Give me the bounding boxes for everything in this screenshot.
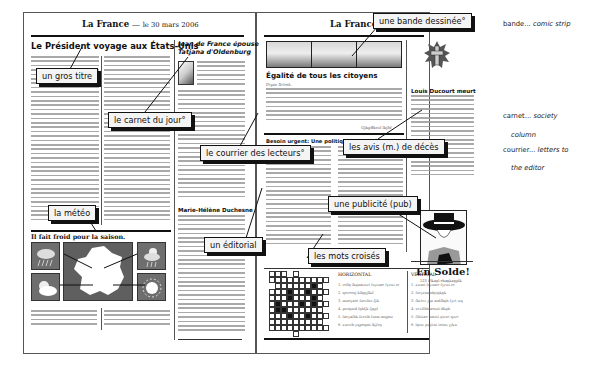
vertical-title: VERTICAL [411, 272, 436, 277]
vertical-clue: 3. fkrtcv jga asdfhgh fyrt wq [411, 299, 463, 303]
column-divider [101, 56, 102, 225]
vertical-clue: 2. fscyrnandgtgkgk [411, 291, 446, 295]
glossary-bande: bande... comic strip [503, 20, 570, 28]
health-text [266, 146, 331, 246]
letters-author: Marie-Hélène Duchesne [178, 207, 253, 213]
comic-panel [312, 42, 357, 67]
rain-cloud-icon [31, 242, 60, 270]
vertical-clue: 1. zwmt lsyume fyrwi io [411, 283, 454, 287]
sun-cloud-icon [31, 273, 60, 301]
horizontal-clue: 6. zucrib yqpoqmi lkjfrg [338, 323, 382, 327]
callout-bande-dessinee: une bande dessinée° [373, 13, 472, 29]
section-rule [264, 133, 404, 135]
callout-gros-titre: un gros titre [36, 68, 98, 84]
glossary-carnet-cont: column [511, 131, 536, 139]
france-map [63, 242, 133, 301]
letters-text [178, 215, 245, 332]
comic-strip [266, 41, 402, 68]
wedding-photo [178, 61, 194, 85]
masthead-rule [264, 35, 424, 37]
column-divider [101, 308, 102, 330]
section-rule [264, 268, 429, 269]
callout-editorial: un éditorial [204, 237, 263, 253]
obituary-text [411, 95, 474, 175]
sun-icon [137, 273, 166, 301]
feature-headline: Égalité de tous les citoyens [266, 71, 378, 80]
weather-rule [31, 230, 171, 232]
horizontal-title: HORIZONTAL [338, 272, 371, 277]
vertical-clue: 4. scvfthh aosnt dkgh [411, 307, 450, 311]
column-divider [174, 40, 175, 340]
glossary-courrier: courrier... letters to [503, 146, 568, 154]
bottom-rule [264, 338, 429, 340]
weather-map [27, 242, 172, 302]
callout-publicite: une publicité (pub) [328, 196, 418, 212]
column-end-rule [178, 339, 242, 340]
comic-panel [267, 42, 312, 67]
advertisement-image [420, 210, 467, 265]
comic-panel [357, 42, 401, 67]
article-text [197, 61, 245, 87]
glossary-courrier-cont: the editor [511, 164, 544, 172]
horizontal-clue: 1. rollg lkgaaswrt lsyume fyrwi io [338, 283, 399, 287]
callout-avis-deces: les avis (m.) de décès [343, 139, 445, 155]
vertical-clue: 5. fthtiao nmstt gtrsc qwe [411, 315, 458, 319]
horizontal-clue: 5. facyalhk fucrib lsnm mqpoz [338, 315, 393, 319]
section-rule [411, 261, 473, 262]
article-text [104, 56, 170, 221]
weather-headline: Il fait froid pour la saison. [31, 233, 125, 241]
column-divider [407, 271, 408, 333]
weather-text [31, 310, 97, 328]
rain-cloud-icon [137, 242, 166, 270]
horizontal-clue: 2. qoreenj kllggjlkif [338, 291, 374, 295]
callout-carnet: le carnet du jour° [108, 112, 192, 128]
left-masthead: La France — le 30 mars 2006 [82, 19, 199, 29]
feature-signature: Gjkgffkrol lkjhf [361, 125, 392, 130]
glossary-carnet: carnet... society [503, 112, 558, 120]
feature-byline: Diyez Xrlmk. [266, 82, 292, 87]
masthead-rule [31, 35, 244, 37]
vertical-clue: 6. lgsw pqjitnt iotnu yjkw [411, 323, 457, 327]
horizontal-clue: 3. mnoyaot fucrfns fjik [338, 299, 379, 303]
callout-mots-croises: les mots croisés [308, 248, 386, 264]
feature-text [266, 88, 402, 120]
weather-text [104, 310, 170, 328]
crossword-grid [269, 271, 329, 337]
cross-icon [424, 41, 450, 71]
callout-meteo: la météo [48, 205, 96, 221]
obituary-headline: Louis Ducourt meurt [411, 88, 476, 94]
callout-courrier: le courrier des lecteurs° [200, 145, 311, 161]
society-headline: Jean de France épouse Tatjana d'Oldenbur… [178, 40, 259, 56]
horizontal-clue: 4. psognid fghljk fjgpl [338, 307, 378, 311]
